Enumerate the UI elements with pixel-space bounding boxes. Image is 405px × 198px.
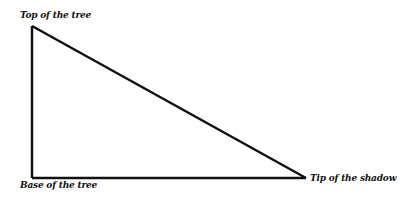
hypotenuse-line	[32, 26, 306, 178]
label-tip-of-shadow: Tip of the shadow	[310, 173, 396, 183]
label-base-of-tree: Base of the tree	[20, 180, 97, 190]
triangle-diagram	[0, 0, 405, 198]
label-top-of-tree: Top of the tree	[20, 10, 91, 20]
